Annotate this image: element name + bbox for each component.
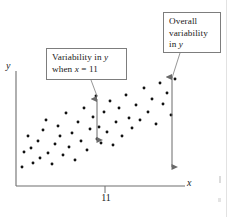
callout-overall-line2: variability bbox=[169, 28, 208, 38]
scatter-point bbox=[166, 92, 169, 95]
scatter-point bbox=[115, 121, 118, 124]
callout-conditional-line1: Variability in y bbox=[52, 52, 108, 62]
callout-overall-variability: Overall variability in y bbox=[163, 12, 221, 53]
scatter-point bbox=[109, 100, 112, 103]
scatter-point bbox=[45, 119, 48, 122]
x-axis-tick-label-11: 11 bbox=[96, 192, 116, 203]
scatter-point bbox=[139, 119, 142, 122]
overall-variability-annotation bbox=[172, 53, 180, 167]
scatter-plot-figure: Variability in y when x = 11 Overall var… bbox=[0, 0, 232, 217]
scatter-point bbox=[83, 107, 86, 110]
callout-overall-line3: in y bbox=[169, 39, 183, 49]
axes bbox=[16, 71, 185, 193]
scatter-point bbox=[32, 162, 35, 165]
scatter-point bbox=[57, 125, 60, 128]
scatter-point bbox=[71, 132, 74, 135]
scatter-point bbox=[106, 131, 109, 134]
callout-overall-line1: Overall bbox=[169, 16, 197, 26]
callout-conditional-y-symbol: y bbox=[104, 52, 108, 62]
page-bleed-mark bbox=[218, 198, 221, 202]
scatter-point bbox=[80, 140, 83, 143]
scatter-points-group bbox=[21, 78, 177, 169]
scatter-point bbox=[62, 154, 65, 157]
scatter-point bbox=[92, 116, 95, 119]
page-bleed-mark bbox=[219, 176, 221, 183]
scatter-point bbox=[89, 128, 92, 131]
callout-conditional-line2: when x = 11 bbox=[52, 64, 98, 74]
scatter-point bbox=[118, 107, 121, 110]
scatter-point bbox=[98, 126, 101, 129]
scatter-point bbox=[143, 87, 146, 90]
scatter-point bbox=[86, 149, 89, 152]
scatter-point bbox=[131, 127, 134, 130]
scatter-point bbox=[155, 123, 158, 126]
scatter-point bbox=[54, 143, 57, 146]
scatter-point bbox=[100, 142, 103, 145]
scatter-point bbox=[39, 157, 42, 160]
scatter-point bbox=[21, 166, 24, 169]
y-axis-label: y bbox=[6, 60, 10, 71]
scatter-point bbox=[135, 104, 138, 107]
scatter-point bbox=[51, 163, 54, 166]
scatter-point bbox=[47, 152, 50, 155]
scatter-point bbox=[23, 151, 26, 154]
x-axis-label: x bbox=[187, 177, 191, 188]
scatter-point bbox=[37, 140, 40, 143]
overall-leader-line bbox=[172, 53, 180, 78]
page-margin-rule bbox=[226, 0, 227, 217]
scatter-point bbox=[59, 135, 62, 138]
scatter-point bbox=[77, 121, 80, 124]
scatter-point bbox=[121, 135, 124, 138]
conditional-leader-line bbox=[91, 80, 97, 96]
scatter-point bbox=[128, 117, 131, 120]
scatter-point bbox=[74, 159, 77, 162]
scatter-point bbox=[125, 94, 128, 97]
scatter-point bbox=[65, 112, 68, 115]
scatter-point bbox=[147, 111, 150, 114]
scatter-point bbox=[159, 82, 162, 85]
scatter-point bbox=[42, 129, 45, 132]
scatter-point bbox=[174, 78, 177, 81]
callout-conditional-variability: Variability in y when x = 11 bbox=[46, 48, 127, 80]
conditional-variability-annotation bbox=[91, 80, 97, 140]
scatter-point bbox=[112, 144, 115, 147]
scatter-point bbox=[151, 98, 154, 101]
scatter-point bbox=[30, 147, 33, 150]
scatter-point bbox=[68, 146, 71, 149]
callout-overall-y-symbol: y bbox=[179, 39, 183, 49]
scatter-point bbox=[103, 111, 106, 114]
scatter-point bbox=[27, 135, 30, 138]
scatter-point bbox=[162, 103, 165, 106]
